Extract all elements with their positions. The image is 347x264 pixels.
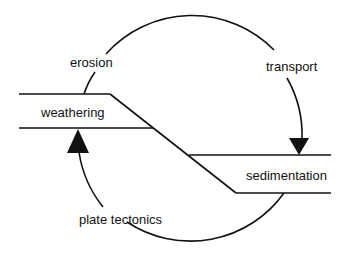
diagram-graphics <box>0 0 347 264</box>
label-erosion: erosion <box>70 56 113 69</box>
arc-top <box>106 15 274 54</box>
arrow-down-icon <box>289 138 309 155</box>
rock-cycle-diagram: erosion transport weathering sedimentati… <box>0 0 347 264</box>
label-sedimentation: sedimentation <box>246 169 327 182</box>
label-plate-tectonics: plate tectonics <box>79 213 162 226</box>
label-weathering: weathering <box>41 106 105 119</box>
arc-erosion-lower <box>84 72 95 94</box>
arc-plate-tectonics <box>79 152 103 207</box>
diagonal-line <box>110 94 236 193</box>
arc-transport <box>287 78 302 139</box>
arrow-up-icon <box>67 129 89 153</box>
label-transport: transport <box>266 60 317 73</box>
